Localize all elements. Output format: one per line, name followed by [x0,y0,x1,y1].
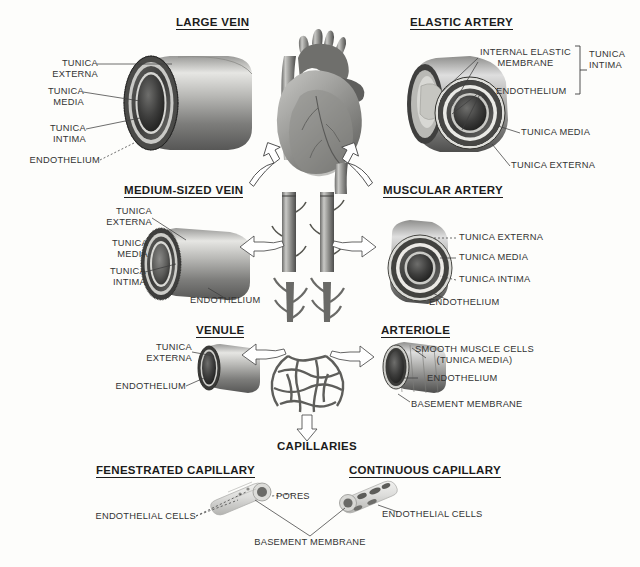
heading-medium-sized-vein: MEDIUM-SIZED VEIN [124,184,243,198]
label-arteriole-endothelium: ENDOTHELIUM [427,373,497,384]
label-large-vein-tunica-intima: TUNICA INTIMA [0,123,86,146]
label-medium-vein-tunica-intima: TUNICA INTIMA [30,266,146,289]
capillary-bed [272,356,343,412]
text-line: INTERNAL ELASTIC [480,47,571,58]
leader-lines [83,46,587,536]
label-venule-endothelium: ENDOTHELIUM [70,381,186,392]
label-arteriole-smooth-muscle-cells: SMOOTH MUSCLE CELLS (TUNICA MEDIA) [415,344,534,367]
label-muscular-artery-endothelium: ENDOTHELIUM [429,297,499,308]
text-line: EXTERNA [70,353,192,364]
text-line: SMOOTH MUSCLE CELLS [415,344,534,355]
text-line: TUNICA [30,238,148,249]
heading-large-vein: LARGE VEIN [176,16,249,30]
medium-sized-vein-illustration [141,228,250,300]
label-fenestrated-endothelial-cells: ENDOTHELIAL CELLS [80,511,196,522]
vessel-structure-diagram: LARGE VEIN TUNICA EXTERNA TUNICA MEDIA T… [0,0,640,567]
label-elastic-artery-tunica-externa: TUNICA EXTERNA [511,160,595,171]
text-line: MEDIA [30,249,148,260]
heading-elastic-artery: ELASTIC ARTERY [410,16,513,30]
venule-illustration [198,344,260,393]
label-medium-vein-tunica-media: TUNICA MEDIA [30,238,148,261]
label-elastic-artery-internal-elastic-membrane: INTERNAL ELASTIC MEMBRANE [480,47,571,70]
text-line: TUNICA [30,266,146,277]
heading-venule: VENULE [196,324,244,338]
heading-continuous-capillary: CONTINUOUS CAPILLARY [349,464,501,478]
label-elastic-artery-endothelium: ENDOTHELIUM [496,86,566,97]
vein-trunk [272,192,307,322]
artery-trunk [310,192,344,322]
label-continuous-endothelial-cells: ENDOTHELIAL CELLS [382,509,483,520]
text-line: TUNICA [0,58,98,69]
fenestrated-capillary-illustration [211,482,271,515]
heart-illustration [277,29,364,194]
text-line: EXTERNA [30,217,152,228]
text-line: (TUNICA MEDIA) [415,355,534,366]
muscular-artery-illustration [388,220,452,304]
label-medium-vein-tunica-externa: TUNICA EXTERNA [30,206,152,229]
text-line: TUNICA [0,123,86,134]
label-large-vein-tunica-media: TUNICA MEDIA [0,86,84,109]
label-muscular-artery-tunica-externa: TUNICA EXTERNA [459,232,543,243]
text-line: TUNICA [0,86,84,97]
label-muscular-artery-tunica-intima: TUNICA INTIMA [459,274,530,285]
text-line: INTIMA [0,134,86,145]
text-line: TUNICA [70,342,192,353]
label-venule-tunica-externa: TUNICA EXTERNA [70,342,192,365]
label-muscular-artery-tunica-media: TUNICA MEDIA [459,252,528,263]
text-line: TUNICA [589,49,625,60]
label-elastic-artery-tunica-media: TUNICA MEDIA [521,127,590,138]
label-medium-vein-endothelium: ENDOTHELIUM [190,295,260,306]
heading-arteriole: ARTERIOLE [381,324,450,338]
heading-muscular-artery: MUSCULAR ARTERY [383,184,503,198]
text-line: TUNICA [30,206,152,217]
label-fenestrated-pores: PORES [276,491,310,502]
text-line: INTIMA [30,277,146,288]
label-large-vein-tunica-externa: TUNICA EXTERNA [0,58,98,81]
text-line: INTIMA [589,60,625,71]
large-vein-illustration [124,56,252,150]
heading-capillaries: CAPILLARIES [277,440,357,452]
text-line: MEMBRANE [480,58,571,69]
label-arteriole-basement-membrane: BASEMENT MEMBRANE [411,399,523,410]
label-basement-membrane: BASEMENT MEMBRANE [232,537,388,548]
elastic-artery-illustration [407,56,508,152]
flow-arrows [237,138,385,441]
heading-fenestrated-capillary: FENESTRATED CAPILLARY [96,464,255,478]
label-elastic-artery-tunica-intima: TUNICA INTIMA [589,49,625,72]
text-line: MEDIA [0,97,84,108]
text-line: EXTERNA [0,69,98,80]
label-large-vein-endothelium: ENDOTHELIUM [0,155,100,166]
